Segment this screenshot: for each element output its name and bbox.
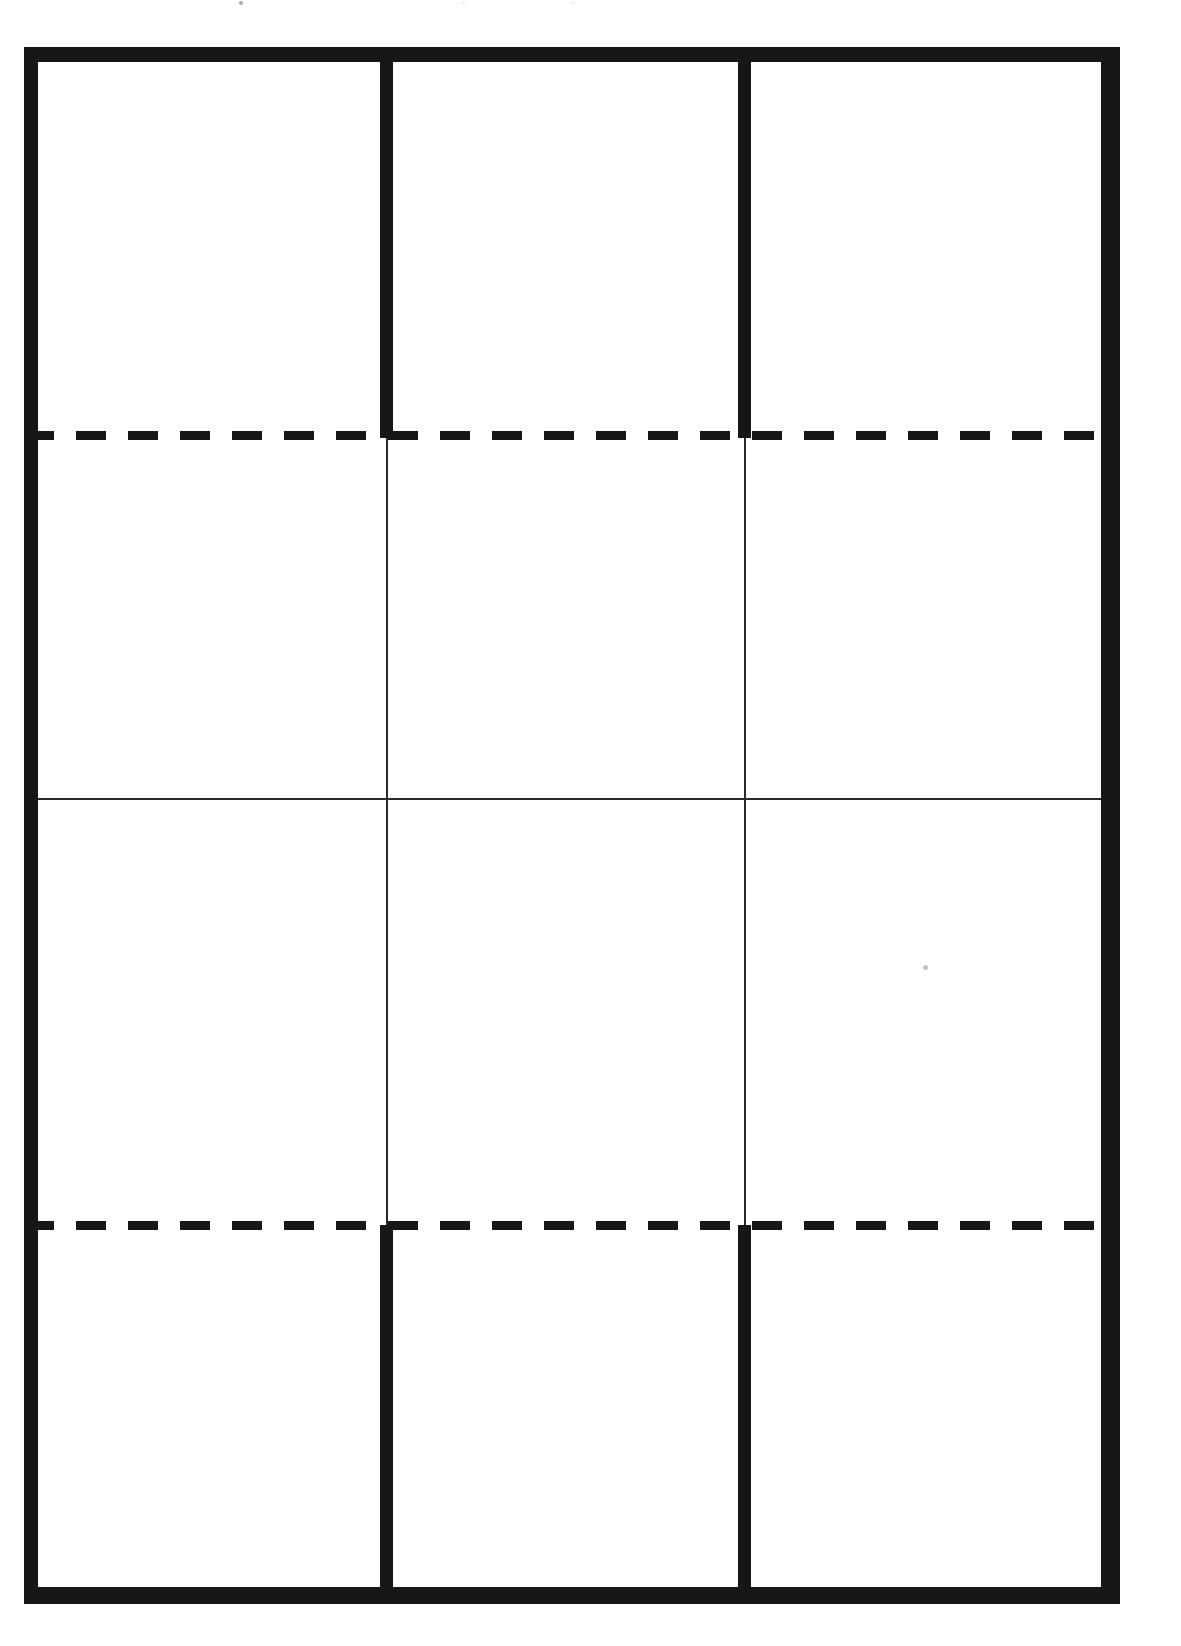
cell-r4c1[interactable]: [38, 1234, 380, 1587]
row-rule-3-dashed: [24, 1221, 1120, 1230]
scanned-page: [0, 0, 1181, 1646]
cell-r3c3[interactable]: [740, 800, 1101, 1225]
scan-speck-top-b: [462, 1, 465, 4]
cell-r3c1[interactable]: [38, 800, 380, 1225]
scan-speck-main: [923, 965, 928, 970]
cell-r2c1[interactable]: [38, 435, 380, 798]
cell-r1c3[interactable]: [751, 62, 1101, 435]
cell-r2c3[interactable]: [740, 435, 1101, 798]
scan-speck-top-a: [239, 1, 243, 5]
cell-r1c2[interactable]: [393, 62, 738, 435]
cell-r2c2[interactable]: [382, 435, 738, 798]
column-divider-1-thin: [386, 435, 388, 1232]
column-divider-1-thick-top: [380, 55, 393, 438]
frame-border-left: [24, 47, 38, 1604]
cell-r1c1[interactable]: [38, 62, 380, 435]
column-divider-1-thick-bottom: [380, 1225, 393, 1596]
frame-border-top: [24, 47, 1120, 62]
cell-r4c2[interactable]: [393, 1234, 738, 1587]
column-divider-2-thick-bottom: [738, 1225, 751, 1596]
frame-border-bottom: [24, 1587, 1120, 1604]
cell-r4c3[interactable]: [751, 1234, 1101, 1587]
row-rule-2-solid: [38, 798, 1120, 800]
row-rule-1-dashed: [24, 431, 1120, 440]
table-frame: [24, 47, 1120, 1604]
column-divider-2-thin: [744, 435, 746, 1232]
scan-speck-top-c: [572, 1, 575, 4]
frame-border-right: [1101, 47, 1120, 1604]
cell-r3c2[interactable]: [382, 800, 738, 1225]
column-divider-2-thick-top: [738, 55, 751, 438]
